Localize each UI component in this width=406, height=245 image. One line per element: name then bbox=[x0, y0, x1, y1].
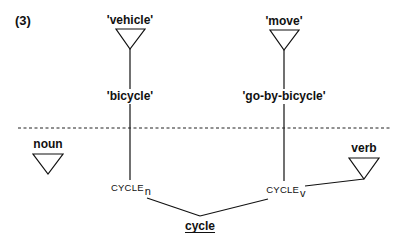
cycle-n-to-cycle-line bbox=[147, 198, 200, 216]
noun-triangle bbox=[33, 154, 63, 174]
verb-label: verb bbox=[351, 141, 376, 155]
cycle-v-base: CYCLE bbox=[266, 184, 299, 195]
move-triangle bbox=[270, 30, 299, 50]
vehicle-label: 'vehicle' bbox=[107, 13, 153, 27]
cycle-n-lexeme: CYCLEn bbox=[111, 182, 151, 197]
cycle-n-base: CYCLE bbox=[111, 182, 144, 193]
vehicle-triangle bbox=[116, 29, 145, 49]
verb-triangle bbox=[349, 158, 379, 179]
cycle-v-subscript: v bbox=[300, 187, 306, 199]
example-number: (3) bbox=[15, 13, 31, 28]
cycle-to-cycle-v-line bbox=[200, 199, 268, 216]
cycle-n-subscript: n bbox=[145, 185, 151, 197]
word-form-label: cycle bbox=[185, 219, 215, 233]
noun-label: noun bbox=[33, 137, 62, 151]
move-label: 'move' bbox=[265, 14, 302, 28]
cycle-v-lexeme: CYCLEv bbox=[266, 184, 305, 199]
diagram-lines bbox=[0, 0, 406, 245]
verb-to-cycle-v-line bbox=[305, 179, 364, 186]
go-by-bicycle-sense-label: 'go-by-bicycle' bbox=[242, 89, 325, 103]
bicycle-sense-label: 'bicycle' bbox=[107, 89, 153, 103]
